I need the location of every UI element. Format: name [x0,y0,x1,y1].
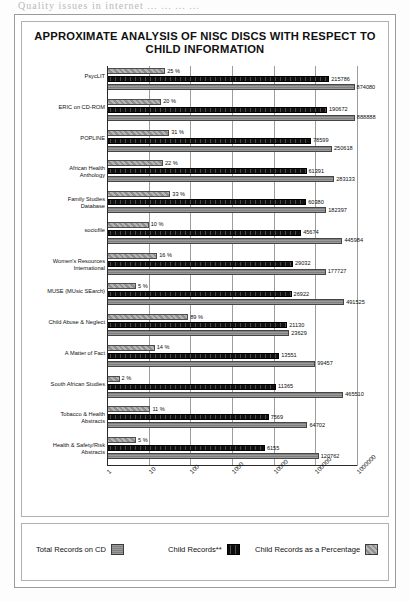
bar-total-records [107,146,332,152]
legend-item-percentage: Child Records as a Percentage [255,544,378,555]
bar-child-records [107,138,311,144]
bar-child-records [107,168,307,174]
bar-label-total-records: 283133 [336,176,355,182]
category-label: Family Studies Database [0,196,105,210]
bar-label-child-records: 29032 [295,260,311,266]
bar-percentage [107,376,120,382]
category-label: sociofile [0,227,105,234]
bar-child-records [107,384,276,390]
chart-legend: Total Records on CD Child Records** Chil… [21,523,389,581]
bar-label-child-records: 215786 [331,76,350,82]
bar-child-records [107,322,287,328]
bar-label-child-records: 60380 [308,199,324,205]
bar-child-records [107,261,293,267]
bar-label-total-records: 491525 [346,299,365,305]
legend-label-percentage: Child Records as a Percentage [255,545,360,554]
bar-percentage [107,160,163,166]
bar-percentage [107,314,188,320]
bar-child-records [107,445,265,451]
bar-label-percentage: 2 % [122,375,132,381]
bar-label-total-records: 23629 [291,330,307,336]
bar-percentage [107,191,170,197]
bar-label-total-records: 465510 [345,391,364,397]
page-frame: APPROXIMATE ANALYSIS OF NISC DISCS WITH … [14,14,396,588]
legend-swatch-child-icon [227,544,240,555]
bar-label-percentage: 5 % [138,437,148,443]
bar-percentage [107,345,155,351]
bar-total-records [107,176,334,182]
bar-percentage [107,130,169,136]
bar-label-total-records: 99457 [317,360,333,366]
chart-title: APPROXIMATE ANALYSIS OF NISC DISCS WITH … [32,30,378,56]
bar-percentage [107,253,157,259]
bar-total-records [107,238,342,244]
bar-percentage [107,222,149,228]
bar-child-records [107,199,306,205]
legend-label-total: Total Records on CD [36,545,106,554]
bar-label-total-records: 445984 [344,237,363,243]
bar-label-child-records: 13551 [281,352,297,358]
bar-label-percentage: 11 % [152,406,164,412]
bar-label-child-records: 6155 [267,445,279,451]
bar-label-child-records: 11365 [278,383,293,389]
bar-total-records [107,392,343,398]
bar-total-records [107,330,289,336]
bar-label-percentage: 20 % [163,98,176,104]
bar-total-records [107,115,355,121]
bar-label-total-records: 888888 [357,114,376,120]
bar-label-total-records: 874080 [357,84,376,90]
chart-panel: APPROXIMATE ANALYSIS OF NISC DISCS WITH … [21,21,389,517]
bar-label-percentage: 33 % [172,191,185,197]
bar-percentage [107,437,136,443]
gridline [315,66,316,466]
bar-label-child-records: 61391 [309,168,325,174]
bar-label-percentage: 14 % [157,344,170,350]
bar-label-total-records: 182397 [328,207,347,213]
category-label: MUSE (MUsic SEarch) [0,288,105,295]
category-label: Health & Safety/Risk Abstracts [0,442,105,456]
category-label: South African Studies [0,381,105,388]
bar-child-records [107,414,269,420]
bar-total-records [107,361,315,367]
bar-total-records [107,453,319,459]
x-tick-label: 10 [147,465,157,475]
category-label: African Health Anthology [0,165,105,179]
bar-label-percentage: 22 % [165,160,178,166]
legend-swatch-total-icon [111,544,124,555]
bar-label-percentage: 25 % [167,68,180,74]
bar-child-records [107,76,329,82]
bar-label-total-records: 250618 [334,145,353,151]
category-label: Tobacco & Health Abstracts [0,411,105,425]
bar-percentage [107,283,136,289]
category-label: ERIC on CD-ROM [0,104,105,111]
bar-label-child-records: 45674 [303,229,319,235]
bar-total-records [107,269,326,275]
bar-label-total-records: 64702 [309,422,325,428]
bar-label-percentage: 16 % [159,252,172,258]
legend-item-child: Child Records** [168,544,240,555]
category-label: POPLINE [0,135,105,142]
bar-total-records [107,422,307,428]
bar-percentage [107,406,150,412]
legend-label-child: Child Records** [168,545,222,554]
category-label: Child Abuse & Neglect [0,319,105,326]
bar-child-records [107,107,327,113]
gridline [357,66,358,466]
bar-total-records [107,84,355,90]
bar-child-records [107,230,301,236]
plot-area: 25 %21578687408020 %19067288888831 %7859… [107,66,357,466]
bar-label-child-records: 78599 [313,137,329,143]
bar-label-total-records: 177727 [328,268,347,274]
bar-label-child-records: 190672 [329,106,348,112]
bar-child-records [107,353,279,359]
bar-label-percentage: 10 % [151,221,164,227]
scan-artifact-text: Quality issues in internet ... ... ... .… [18,0,348,12]
bar-child-records [107,291,292,297]
bar-label-child-records: 26922 [294,291,310,297]
category-label: Women's Resources International [0,258,105,272]
category-label: PsycLIT [0,73,105,80]
bar-percentage [107,99,161,105]
legend-swatch-percentage-icon [365,544,378,555]
bar-label-percentage: 5 % [138,283,148,289]
bar-label-child-records: 7569 [271,414,283,420]
